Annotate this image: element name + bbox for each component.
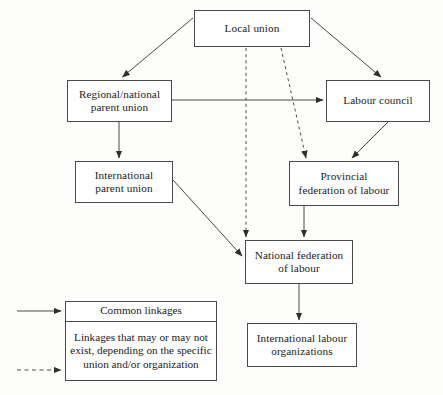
edge-international-parent-to-national	[173, 180, 242, 256]
edge-local-to-labour-council	[311, 18, 381, 77]
node-national-federation-line2: of labour	[255, 262, 344, 275]
legend-text-conditional-linkages: Linkages that may or may not exist, depe…	[69, 331, 213, 371]
node-local-union[interactable]: Local union	[194, 10, 310, 47]
node-provincial-line2: federation of labour	[299, 184, 390, 197]
legend: Common linkages Linkages that may or may…	[17, 300, 217, 381]
node-provincial-federation-of-labour[interactable]: Provincial federation of labour	[289, 161, 399, 206]
node-ilo-line1: International labour	[257, 332, 348, 345]
legend-row-common-linkages: Common linkages	[17, 300, 217, 322]
legend-key-solid-arrow	[17, 300, 65, 322]
node-international-labour-organizations[interactable]: International labour organizations	[247, 323, 357, 367]
diagram-canvas: Local union Regional/national parent uni…	[0, 0, 443, 395]
node-national-federation-line1: National federation	[255, 249, 344, 262]
legend-row-conditional-linkages: Linkages that may or may not exist, depe…	[17, 321, 217, 381]
node-ilo-line2: organizations	[257, 345, 348, 358]
legend-key-dashed-arrow	[17, 340, 65, 362]
edge-local-to-provincial-federation	[281, 48, 306, 158]
edge-labour-council-to-provincial	[352, 122, 388, 158]
node-regional-national-parent-union[interactable]: Regional/national parent union	[67, 80, 172, 122]
node-international-parent-union[interactable]: International parent union	[75, 161, 173, 203]
node-regional-line2: parent union	[79, 101, 160, 114]
edge-local-to-regional	[123, 18, 194, 77]
node-provincial-line1: Provincial	[299, 170, 390, 183]
legend-label-conditional-linkages: Linkages that may or may not exist, depe…	[65, 321, 217, 381]
node-labour-council[interactable]: Labour council	[326, 80, 430, 122]
node-regional-line1: Regional/national	[79, 88, 160, 101]
legend-text-common-linkages: Common linkages	[100, 304, 182, 317]
node-local-union-label: Local union	[225, 22, 280, 35]
node-international-parent-line1: International	[95, 169, 153, 182]
node-international-parent-line2: parent union	[95, 182, 153, 195]
node-national-federation-of-labour[interactable]: National federation of labour	[245, 240, 353, 284]
figure-caption	[8, 385, 438, 395]
legend-label-common-linkages: Common linkages	[65, 301, 217, 322]
node-labour-council-label: Labour council	[343, 94, 412, 107]
